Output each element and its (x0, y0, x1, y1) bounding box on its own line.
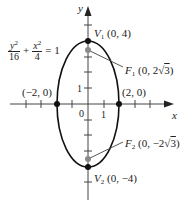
f1-coords-pre: (0, 2 (138, 64, 158, 76)
f2-name: F (125, 137, 132, 149)
covertex-right-point (116, 101, 122, 107)
covertex-left-point (54, 101, 60, 107)
x-tick-1-label: 1 (101, 109, 106, 120)
y-axis-label: y (78, 3, 83, 14)
equals-one: = 1 (45, 44, 59, 56)
f1-coords-post: ) (170, 64, 174, 76)
right-covertex-label: (2, 0) (122, 87, 146, 98)
x-axis-label: x (172, 110, 177, 121)
term-y: y2 16 (8, 38, 20, 62)
v2-sub: 2 (101, 178, 105, 186)
y-tick-1-label: 1 (77, 83, 82, 94)
f2-coords-pre: (0, −2 (138, 137, 164, 149)
f1-name: F (125, 64, 132, 76)
origin-label: 0 (79, 108, 84, 119)
v2-label: V2 (0, −4) (94, 173, 137, 188)
left-covertex-label: (−2, 0) (22, 87, 52, 98)
den-4: 4 (32, 52, 42, 62)
ellipse-equation: y2 16 + x2 4 = 1 (8, 38, 60, 62)
v1-label: V1 (0, 4) (94, 28, 131, 43)
focus-f2-point (85, 156, 91, 162)
y-axis-arrow-icon (85, 6, 92, 16)
v2-name: V (94, 172, 101, 184)
f1-sub: 1 (132, 70, 136, 78)
v1-coords: (0, 4) (107, 27, 131, 39)
x-axis (10, 100, 174, 108)
plus-sign: + (23, 44, 29, 56)
vertex-v2-point (85, 164, 91, 170)
f2-sub: 2 (132, 143, 136, 151)
vertex-v1-point (85, 38, 91, 44)
v2-coords: (0, −4) (107, 172, 137, 184)
f2-label: F2 (0, −2√3) (125, 138, 180, 153)
y-axis (84, 6, 92, 200)
exp: 2 (14, 39, 18, 47)
x-axis-arrow-icon (164, 101, 174, 108)
v1-sub: 1 (101, 33, 105, 41)
exp: 2 (38, 39, 42, 47)
den-16: 16 (8, 52, 20, 62)
v1-name: V (94, 27, 101, 39)
f2-coords-post: ) (176, 137, 180, 149)
f1-label: F1 (0, 2√3) (125, 65, 173, 80)
focus-f1-point (85, 47, 91, 53)
term-x: x2 4 (32, 38, 42, 62)
